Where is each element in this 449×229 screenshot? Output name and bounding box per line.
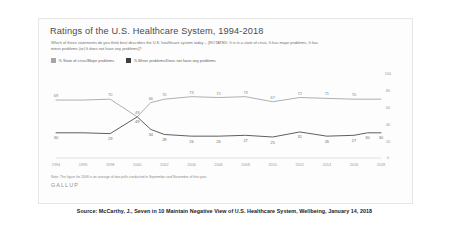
y-axis-tick-label: 100 bbox=[385, 72, 391, 76]
page-title: Ratings of the U.S. Healthcare System, 1… bbox=[50, 26, 402, 36]
chart-legend: % State of crisis/Major problems % Minor… bbox=[51, 58, 402, 63]
data-point-label: 31 bbox=[298, 135, 302, 140]
x-axis-tick-label: 2010 bbox=[268, 163, 276, 167]
data-point-label: 67 bbox=[271, 95, 275, 100]
data-point-label: 69 bbox=[54, 93, 58, 98]
legend-swatch-crisis bbox=[51, 58, 56, 63]
x-axis-tick-label: 1998 bbox=[106, 163, 114, 167]
data-point-label: 26 bbox=[325, 139, 329, 144]
data-point-label: 72 bbox=[298, 91, 302, 96]
x-axis-tick-label: 2018 bbox=[377, 163, 385, 167]
data-point-label: 70 bbox=[162, 92, 167, 97]
data-point-label: 30 bbox=[365, 135, 370, 140]
x-axis-tick-label: 2002 bbox=[160, 163, 168, 167]
y-axis-tick-label: 20 bbox=[386, 140, 390, 144]
x-axis-tick-label: 2004 bbox=[187, 163, 195, 167]
x-axis-tick-label: 2000 bbox=[133, 163, 141, 167]
gallup-logo: GALLUP bbox=[51, 182, 402, 188]
y-axis-tick-label: 60 bbox=[386, 106, 390, 110]
legend-item-crisis[interactable]: % State of crisis/Major problems bbox=[51, 58, 114, 63]
data-point-label: 70 bbox=[108, 92, 113, 97]
legend-swatch-minor bbox=[126, 58, 131, 63]
line-chart-svg: 0204060801001994199619982000200220042006… bbox=[50, 66, 403, 174]
x-axis-tick-label: 2008 bbox=[241, 163, 249, 167]
legend-item-minor[interactable]: % Minor problems/Does not have any probl… bbox=[126, 58, 215, 63]
y-axis-tick-label: 80 bbox=[386, 89, 390, 93]
gallup-chart-card: Ratings of the U.S. Healthcare System, 1… bbox=[38, 18, 413, 204]
data-point-label: 70 bbox=[352, 92, 357, 97]
data-point-label: 73 bbox=[243, 90, 247, 95]
data-point-label: 26 bbox=[189, 139, 193, 144]
screenshot-root: Ratings of the U.S. Healthcare System, 1… bbox=[0, 0, 449, 229]
chart-footnote: Note: The figure for 2008 is an average … bbox=[51, 175, 402, 179]
x-axis-tick-label: 2012 bbox=[296, 163, 304, 167]
y-axis-tick-label: 0 bbox=[387, 156, 389, 160]
data-point-label: 30 bbox=[379, 135, 384, 140]
data-point-label: 30 bbox=[54, 135, 59, 140]
y-axis-tick-label: 40 bbox=[386, 123, 390, 127]
x-axis-tick-label: 2006 bbox=[214, 163, 222, 167]
chart-subtitle: Which of these statements do you think b… bbox=[51, 40, 319, 52]
data-point-label: 34 bbox=[149, 132, 154, 137]
data-point-label: 49 bbox=[135, 110, 139, 115]
series-line-minor bbox=[56, 117, 381, 137]
data-point-label: 28 bbox=[162, 137, 166, 142]
data-point-label: 26 bbox=[216, 139, 220, 144]
figure-source-caption: Source: McCarthy, J., Seven in 10 Mainta… bbox=[0, 208, 449, 214]
data-point-label: 29 bbox=[108, 136, 112, 141]
data-point-label: 25 bbox=[271, 140, 275, 145]
series-line-crisis bbox=[56, 97, 381, 117]
chart-plot-area: 0204060801001994199619982000200220042006… bbox=[50, 66, 403, 174]
data-point-label: 72 bbox=[216, 91, 220, 96]
data-point-label: 71 bbox=[325, 91, 329, 96]
legend-label-minor: % Minor problems/Does not have any probl… bbox=[134, 58, 216, 63]
x-axis-tick-label: 1996 bbox=[79, 163, 87, 167]
data-point-label: 49 bbox=[135, 119, 139, 124]
data-point-label: 27 bbox=[352, 138, 356, 143]
data-point-label: 27 bbox=[243, 138, 247, 143]
x-axis-tick-label: 2016 bbox=[350, 163, 358, 167]
data-point-label: 66 bbox=[149, 96, 153, 101]
data-point-label: 73 bbox=[189, 90, 193, 95]
x-axis-tick-label: 2014 bbox=[323, 163, 331, 167]
legend-label-crisis: % State of crisis/Major problems bbox=[59, 58, 115, 63]
x-axis-tick-label: 1994 bbox=[52, 163, 60, 167]
